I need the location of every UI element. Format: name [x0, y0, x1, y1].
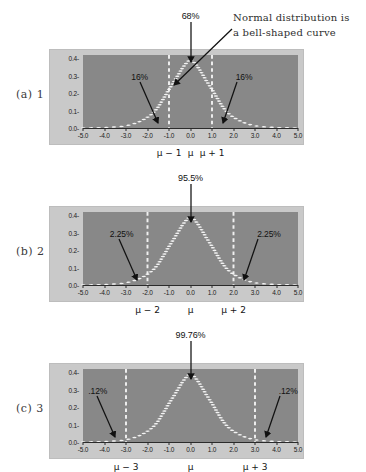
x-axis-label-b: -5.0 [78, 289, 88, 296]
normal-curve-b [83, 216, 298, 284]
x-axis-tick-b [169, 285, 170, 288]
x-axis-tick-a [104, 128, 105, 131]
center-arrow-b [186, 184, 196, 222]
right-tail-percent-label-a: 16% [236, 72, 253, 82]
right-tail-percent-label-b: 2.25% [257, 229, 281, 239]
x-axis-label-c: 5.0 [294, 446, 302, 453]
x-axis-label-c: 2.0 [229, 446, 237, 453]
x-axis-label-a: 0.0 [186, 132, 194, 139]
y-axis-label-a: 0.4- [69, 55, 79, 62]
center-percent-label-c: 99.76% [171, 330, 211, 340]
y-axis-label-c: 0.3- [69, 386, 79, 393]
x-axis-label-a: -3.0 [121, 132, 131, 139]
x-axis-label-c: -4.0 [99, 446, 109, 453]
y-axis-label-a: 0.1- [69, 107, 79, 114]
x-axis-tick-b [276, 285, 277, 288]
left-tail-arrow-b [118, 238, 138, 281]
figure-index-label-b: (b) 2 [16, 245, 45, 258]
x-axis-tick-a [147, 128, 148, 131]
x-axis-label-b: 2.0 [229, 289, 237, 296]
x-axis-label-b: -4.0 [99, 289, 109, 296]
x-axis-tick-b [233, 285, 234, 288]
mu-plus-label-c: μ + 3 [243, 462, 268, 472]
x-axis-label-c: -3.0 [121, 446, 131, 453]
left-tail-arrow-a [139, 81, 159, 124]
y-axis-label-b: 0.1- [69, 264, 79, 271]
x-axis-tick-c [126, 442, 127, 445]
x-axis-tick-b [126, 285, 127, 288]
x-axis-tick-a [190, 128, 191, 131]
x-axis-tick-c [233, 442, 234, 445]
y-axis-label-c: 0.2- [69, 404, 79, 411]
y-axis-label-c: 0.4- [69, 369, 79, 376]
x-axis-tick-b [104, 285, 105, 288]
x-axis-label-b: 3.0 [251, 289, 259, 296]
x-axis-label-c: 0.0 [186, 446, 194, 453]
y-axis-label-b: 0.0- [69, 282, 79, 289]
x-axis-label-b: -1.0 [164, 289, 174, 296]
x-axis-tick-c [255, 442, 256, 445]
plot-area-b: 0.0-0.1-0.2-0.3-0.4--5.0-4.0-3.0-2.0-1.0… [83, 212, 298, 285]
x-axis-tick-a [255, 128, 256, 131]
y-axis-label-a: 0.2- [69, 90, 79, 97]
x-axis-label-c: 1.0 [208, 446, 216, 453]
right-tail-arrow-b [243, 238, 259, 281]
right-tail-arrow-a [222, 81, 238, 124]
x-axis-label-a: -2.0 [142, 132, 152, 139]
bell-curve-svg-b [83, 212, 298, 285]
figure-index-label-c: (c) 3 [16, 402, 44, 415]
figure-index-label-a: (a) 1 [16, 88, 44, 101]
y-axis-label-b: 0.2- [69, 247, 79, 254]
x-axis-label-b: 5.0 [294, 289, 302, 296]
x-axis-label-a: 2.0 [229, 132, 237, 139]
x-axis-tick-a [83, 128, 84, 131]
right-tail-arrow-c [265, 395, 281, 438]
x-axis-label-a: 3.0 [251, 132, 259, 139]
left-tail-arrow-c [96, 395, 116, 438]
x-axis-label-c: 3.0 [251, 446, 259, 453]
x-axis-tick-c [83, 442, 84, 445]
handwritten-note-pointer [173, 28, 233, 86]
x-axis-tick-c [147, 442, 148, 445]
x-axis-label-a: -4.0 [99, 132, 109, 139]
x-axis-label-a: -5.0 [78, 132, 88, 139]
center-percent-label-b: 95.5% [171, 173, 211, 183]
y-axis-label-c: 0.0- [69, 439, 79, 446]
handwritten-note-line2: a bell-shaped curve [233, 25, 350, 40]
x-axis-tick-a [276, 128, 277, 131]
center-percent-label-a: 68% [171, 11, 211, 21]
y-axis-label-b: 0.4- [69, 212, 79, 219]
x-axis-tick-a [212, 128, 213, 131]
x-axis-label-a: 1.0 [208, 132, 216, 139]
x-axis-label-a: 4.0 [272, 132, 280, 139]
x-axis-label-c: -1.0 [164, 446, 174, 453]
x-axis-tick-a [233, 128, 234, 131]
x-axis-tick-a [298, 128, 299, 131]
figure-panel-c: (c) 3 0.0-0.1-0.2-0.3-0.4--5.0-4.0-3.0-2… [0, 314, 366, 471]
figure-panel-b: (b) 2 0.0-0.1-0.2-0.3-0.4--5.0-4.0-3.0-2… [0, 157, 366, 314]
y-axis-label-a: 0.0- [69, 125, 79, 132]
x-axis-label-a: 5.0 [294, 132, 302, 139]
x-axis-label-b: -2.0 [142, 289, 152, 296]
x-axis-label-c: 4.0 [272, 446, 280, 453]
center-arrow-c [186, 341, 196, 379]
x-axis-tick-c [104, 442, 105, 445]
x-axis-tick-c [169, 442, 170, 445]
x-axis-label-c: -2.0 [142, 446, 152, 453]
x-axis-label-b: 0.0 [186, 289, 194, 296]
x-axis-tick-c [276, 442, 277, 445]
x-axis-tick-b [147, 285, 148, 288]
handwritten-note: Normal distribution is a bell-shaped cur… [233, 10, 350, 40]
x-axis-label-b: 4.0 [272, 289, 280, 296]
x-axis-tick-a [169, 128, 170, 131]
x-axis-label-c: -5.0 [78, 446, 88, 453]
x-axis-label-a: -1.0 [164, 132, 174, 139]
x-axis-tick-b [190, 285, 191, 288]
mu-minus-label-c: μ − 3 [114, 462, 139, 472]
x-axis-tick-c [190, 442, 191, 445]
x-axis-tick-b [298, 285, 299, 288]
x-axis-tick-b [212, 285, 213, 288]
x-axis-tick-c [298, 442, 299, 445]
right-tail-percent-label-c: .12% [279, 386, 298, 396]
x-axis-label-b: -3.0 [121, 289, 131, 296]
